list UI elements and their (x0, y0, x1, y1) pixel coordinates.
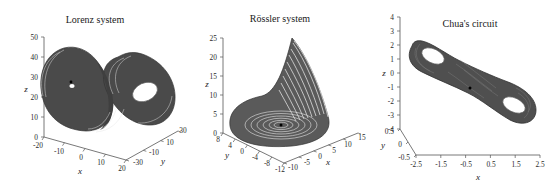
lorenz-ztick-40: 40 (31, 53, 39, 62)
chua-ztick-n3: -3 (388, 111, 394, 120)
rossler-attractor (230, 38, 329, 147)
lorenz-xtick-0: 0 (79, 153, 83, 162)
chua-z-ticks: 4 3 2 1 0 -1 -2 -3 -4 (388, 13, 400, 134)
rossler-title: Rössler system (250, 13, 311, 24)
lorenz-ytick-n10: -10 (149, 148, 159, 157)
rossler-ztick-5: 5 (213, 110, 217, 119)
rossler-z-axis-label: z (204, 79, 209, 89)
chua-ztick-n1: -1 (388, 83, 394, 92)
rossler-ytick-n12: -12 (275, 165, 285, 174)
lorenz-y-ticks: -30 -10 10 30 (126, 126, 187, 167)
lorenz-xtick-20: 20 (118, 164, 126, 173)
chua-xtick-n15: -1.5 (435, 160, 447, 169)
chua-ztick-3: 3 (390, 27, 394, 36)
chua-ytick-n05: -0.5 (398, 153, 410, 162)
chua-xtick-05: 0.5 (486, 160, 496, 169)
chua-panel: Chua's circuit 4 3 2 1 0 -1 -2 -3 (360, 0, 549, 187)
lorenz-xtick-10: 10 (97, 158, 105, 167)
rossler-xtick-n5: -5 (304, 158, 310, 167)
lorenz-xtick-n20: -20 (33, 141, 43, 150)
lorenz-ztick-30: 30 (31, 73, 39, 82)
lorenz-attractor (41, 47, 175, 132)
chua-y-ticks: 0.5 0 -0.5 (385, 127, 416, 162)
rossler-xtick-10: 10 (344, 140, 352, 149)
rossler-x-axis-label: x (325, 157, 330, 167)
chua-ytick-0: 0 (398, 140, 402, 149)
rossler-ztick-25: 25 (210, 34, 218, 43)
rossler-ztick-10: 10 (210, 91, 218, 100)
lorenz-ytick-n30: -30 (133, 158, 143, 167)
chua-ztick-4: 4 (390, 13, 394, 22)
rossler-ytick-8: 8 (216, 135, 220, 144)
rossler-xtick-5: 5 (332, 146, 336, 155)
chua-y-axis-label: y (380, 140, 385, 150)
rossler-xtick-n10: -10 (288, 163, 298, 172)
rossler-ytick-n4: -4 (252, 153, 258, 162)
rossler-ytick-4: 4 (228, 141, 232, 150)
chaotic-attractors-figure: Lorenz system 50 40 30 20 10 0 z (0, 0, 549, 187)
lorenz-ztick-10: 10 (31, 113, 39, 122)
lorenz-ztick-20: 20 (31, 93, 39, 102)
rossler-y-axis-label: y (224, 150, 229, 160)
rossler-ytick-0: 0 (240, 147, 244, 156)
lorenz-xtick-n10: -10 (54, 147, 64, 156)
chua-attractor (409, 41, 536, 123)
chua-xtick-25: 2.5 (535, 160, 545, 169)
lorenz-ztick-50: 50 (31, 33, 39, 42)
rossler-ztick-20: 20 (210, 53, 218, 62)
chua-title: Chua's circuit (443, 18, 498, 29)
lorenz-y-axis-label: y (160, 156, 165, 166)
chua-x-ticks: -2.5 -1.5 -0.5 0.5 1.5 2.5 (410, 155, 545, 169)
chua-ztick-n2: -2 (388, 97, 394, 106)
chua-xtick-15: 1.5 (511, 160, 521, 169)
chua-x-axis-label: x (475, 172, 480, 182)
rossler-panel: Rössler system 25 20 15 10 5 0 z (180, 0, 370, 187)
rossler-ytick-n8: -8 (264, 159, 270, 168)
chua-ytick-05: 0.5 (385, 127, 395, 136)
lorenz-z-axis-label: z (23, 84, 28, 94)
lorenz-x-axis-label: x (77, 166, 82, 176)
rossler-z-ticks: 25 20 15 10 5 0 (210, 34, 223, 138)
rossler-ztick-15: 15 (210, 72, 218, 81)
chua-z-axis-label: z (381, 68, 386, 78)
chua-ztick-2: 2 (390, 41, 394, 50)
lorenz-title: Lorenz system (66, 14, 125, 25)
chua-xtick-n05: -0.5 (460, 160, 472, 169)
chua-ztick-1: 1 (390, 55, 394, 64)
rossler-xtick-0: 0 (318, 152, 322, 161)
chua-xtick-n25: -2.5 (410, 160, 422, 169)
lorenz-ytick-10: 10 (166, 138, 174, 147)
chua-ztick-0: 0 (390, 69, 394, 78)
lorenz-panel: Lorenz system 50 40 30 20 10 0 z (0, 0, 190, 187)
